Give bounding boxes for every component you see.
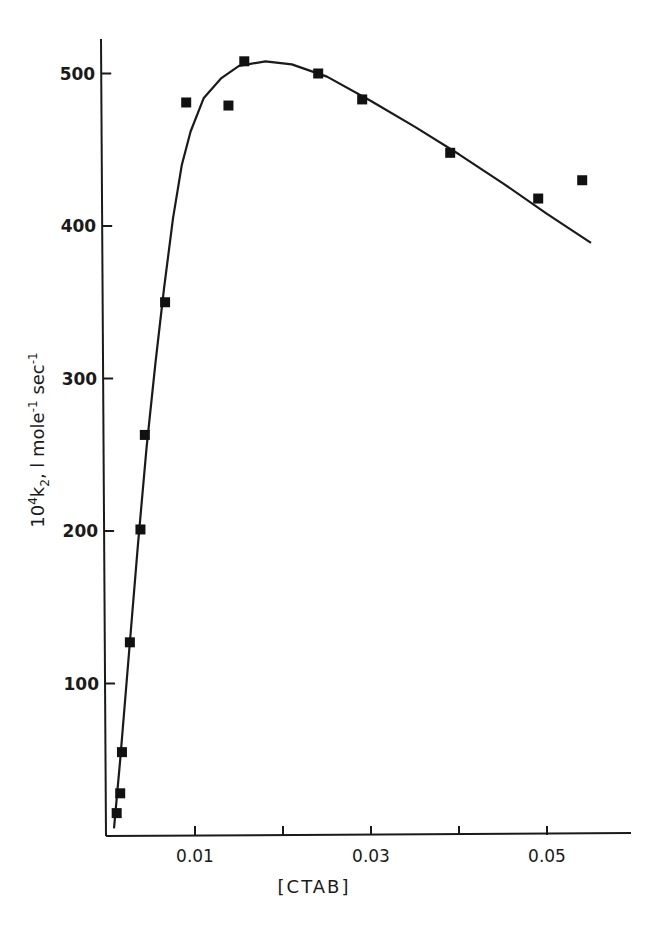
data-points: [112, 56, 588, 818]
y-tick-label: 100: [64, 674, 100, 694]
axes: [101, 39, 631, 836]
x-tick-label: 0.03: [352, 846, 390, 866]
data-point: [140, 430, 150, 440]
y-axis-title: 104k2, l mole-1 sec-1: [26, 352, 52, 527]
y-tick-label: 400: [61, 216, 97, 236]
y-tick-label: 200: [63, 521, 99, 541]
x-tick-label: 0.01: [176, 846, 214, 866]
x-axis: [106, 833, 631, 836]
data-point: [181, 97, 191, 107]
data-point: [313, 69, 323, 79]
y-axis: [101, 39, 106, 836]
x-tick-label: 0.05: [528, 846, 566, 866]
data-point: [160, 297, 170, 307]
data-point: [115, 788, 125, 798]
fitted-curve: [114, 61, 591, 828]
data-point: [112, 808, 122, 818]
x-axis-title: [CTAB]: [278, 876, 351, 897]
data-point: [239, 56, 249, 66]
data-point: [223, 101, 233, 111]
data-point: [117, 747, 127, 757]
x-ticks: 0.010.030.05: [176, 826, 566, 866]
y-tick-label: 300: [62, 369, 98, 389]
data-point: [445, 148, 455, 158]
data-point: [125, 637, 135, 647]
data-point: [533, 194, 543, 204]
y-tick-label: 500: [60, 64, 96, 84]
data-point: [135, 524, 145, 534]
curve-line: [114, 61, 591, 828]
chart: 0.010.030.05 100200300400500 [CTAB] 104k…: [0, 0, 661, 929]
data-point: [357, 94, 367, 104]
y-ticks: 100200300400500: [60, 64, 115, 694]
data-point: [577, 175, 587, 185]
